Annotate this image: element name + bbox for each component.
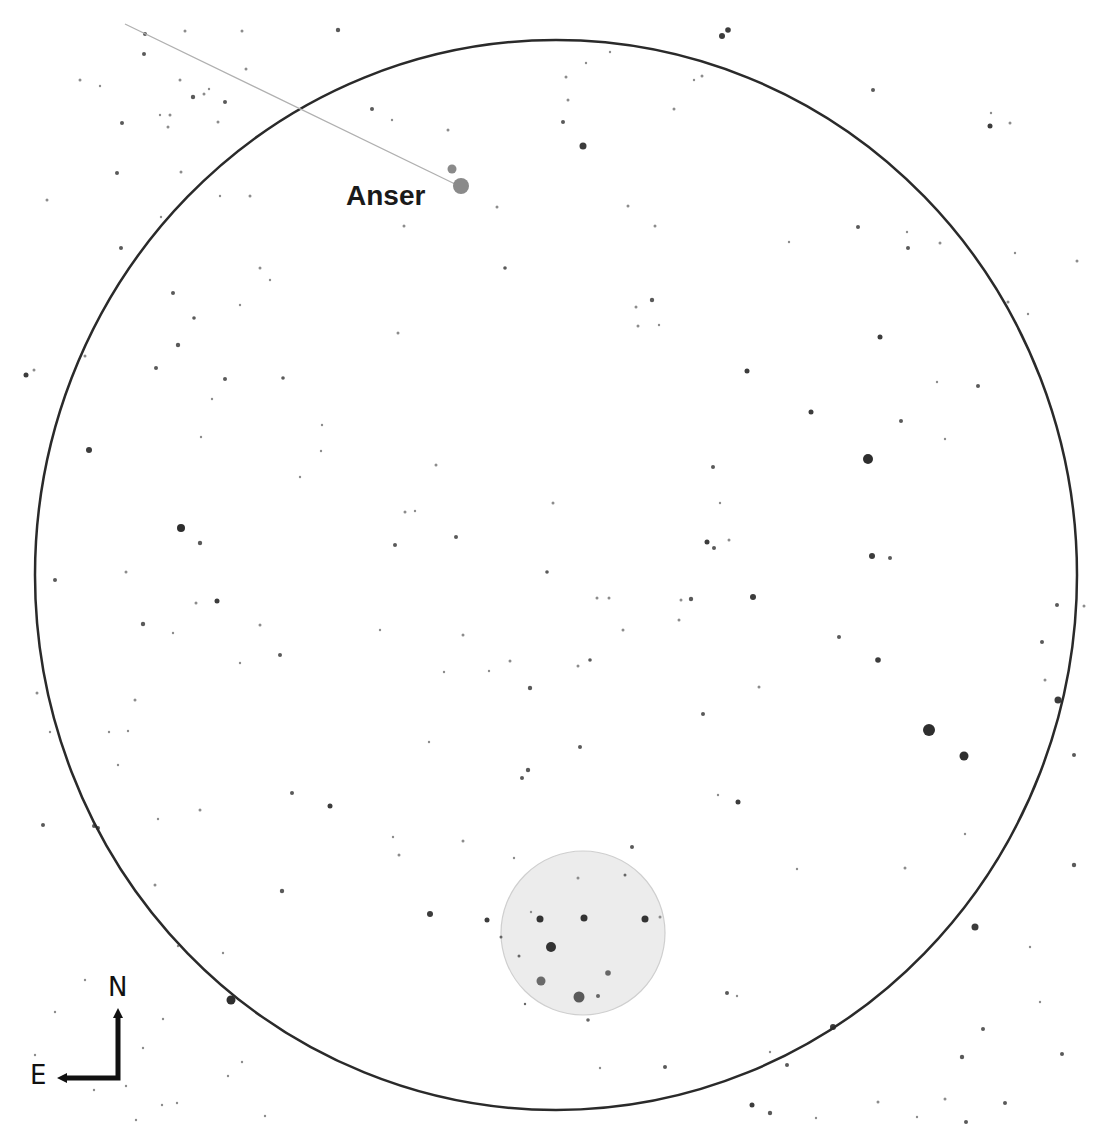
star	[608, 597, 611, 600]
star	[939, 242, 942, 245]
star	[673, 108, 676, 111]
cluster-star	[605, 970, 611, 976]
star	[34, 1054, 36, 1056]
star	[964, 1120, 968, 1124]
star	[503, 266, 507, 270]
star	[125, 571, 128, 574]
star	[208, 88, 210, 90]
star	[561, 120, 565, 124]
star	[211, 398, 213, 400]
star	[157, 818, 159, 820]
star	[717, 794, 719, 796]
cluster-star	[624, 874, 627, 877]
star	[990, 112, 992, 114]
star	[462, 840, 465, 843]
east-arrowhead-icon	[57, 1073, 67, 1083]
star	[320, 450, 322, 452]
star	[36, 692, 39, 695]
star	[693, 79, 695, 81]
star	[127, 730, 129, 732]
star	[161, 1104, 163, 1106]
star	[119, 246, 123, 250]
star	[736, 995, 738, 997]
star	[1040, 640, 1044, 644]
star	[192, 316, 196, 320]
star	[280, 889, 284, 893]
star	[84, 979, 86, 981]
star	[84, 355, 87, 358]
cluster-star	[537, 916, 544, 923]
star	[241, 1061, 243, 1063]
star	[176, 343, 180, 347]
star	[725, 27, 731, 33]
star	[485, 918, 490, 923]
star	[1029, 946, 1031, 948]
star	[680, 599, 683, 602]
star	[370, 107, 374, 111]
star	[769, 1051, 771, 1053]
cluster-star	[518, 955, 521, 958]
star	[788, 241, 790, 243]
star	[159, 114, 161, 116]
star	[637, 325, 640, 328]
star	[875, 657, 881, 663]
star	[705, 540, 710, 545]
cluster-star	[581, 915, 588, 922]
star-field	[0, 0, 1097, 1148]
star	[711, 465, 715, 469]
star	[530, 911, 532, 913]
star	[141, 622, 145, 626]
star	[701, 75, 704, 78]
star	[856, 225, 860, 229]
star	[249, 195, 252, 198]
star	[154, 884, 157, 887]
star	[944, 1098, 947, 1101]
star	[199, 809, 202, 812]
star	[728, 539, 731, 542]
star	[142, 52, 146, 56]
star	[609, 51, 611, 53]
star	[1007, 301, 1010, 304]
star	[217, 121, 220, 124]
star	[863, 454, 873, 464]
star	[689, 597, 693, 601]
star	[916, 1116, 918, 1118]
star	[108, 731, 110, 733]
star	[871, 88, 875, 92]
star	[222, 952, 224, 954]
star	[578, 745, 582, 749]
star	[397, 332, 400, 335]
star	[46, 199, 49, 202]
star	[658, 324, 660, 326]
star	[526, 768, 530, 772]
cluster-star	[586, 1018, 590, 1022]
star	[269, 279, 271, 281]
star	[160, 216, 162, 218]
star	[659, 916, 662, 919]
star	[736, 800, 741, 805]
cluster-star	[500, 936, 503, 939]
star	[964, 833, 966, 835]
star	[960, 752, 969, 761]
star	[321, 424, 323, 426]
star	[462, 634, 465, 637]
star	[264, 1115, 266, 1117]
star	[171, 291, 175, 295]
star	[198, 541, 202, 545]
star	[223, 100, 227, 104]
star	[528, 686, 532, 690]
star	[785, 1063, 789, 1067]
star	[195, 602, 198, 605]
star	[115, 171, 119, 175]
star	[899, 419, 903, 423]
star	[944, 438, 946, 440]
star	[241, 30, 244, 33]
star-label-anser: Anser	[346, 182, 425, 210]
star	[447, 129, 450, 132]
north-arrowhead-icon	[113, 1008, 123, 1018]
star	[585, 62, 587, 64]
star	[488, 670, 490, 672]
star	[454, 535, 458, 539]
star	[79, 79, 82, 82]
cluster-star	[574, 992, 585, 1003]
